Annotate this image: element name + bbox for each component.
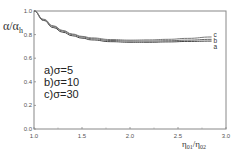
y-tick-label: 1.0 bbox=[24, 8, 33, 14]
curve-b bbox=[34, 11, 212, 41]
legend-entry: c)σ=30 bbox=[44, 88, 79, 100]
legend: a)σ=5b)σ=10c)σ=30 bbox=[44, 64, 79, 100]
x-tick-label: 1.5 bbox=[78, 133, 87, 139]
line-chart: 0.00.20.40.60.81.0 1.01.52.02.53.0 cba a… bbox=[0, 0, 244, 155]
y-tick-label: 0.0 bbox=[24, 126, 33, 132]
x-tick-label: 1.0 bbox=[30, 133, 39, 139]
y-tick-label: 0.2 bbox=[24, 102, 33, 108]
curve-c bbox=[34, 11, 212, 40]
x-axis-title: η01/η02 bbox=[182, 139, 206, 150]
curve-a bbox=[34, 11, 212, 42]
x-tick-label: 3.0 bbox=[222, 133, 231, 139]
y-tick-label: 0.6 bbox=[24, 55, 33, 61]
y-tick-label: 0.8 bbox=[24, 32, 33, 38]
curve-labels: cba bbox=[214, 31, 218, 50]
legend-entry: b)σ=10 bbox=[44, 76, 79, 88]
data-curves bbox=[34, 11, 212, 42]
curve-label-a: a bbox=[214, 43, 218, 50]
y-axis-title: α/αh bbox=[3, 19, 23, 35]
x-tick-label: 2.0 bbox=[126, 133, 135, 139]
legend-entry: a)σ=5 bbox=[44, 64, 73, 76]
y-tick-label: 0.4 bbox=[24, 79, 33, 85]
